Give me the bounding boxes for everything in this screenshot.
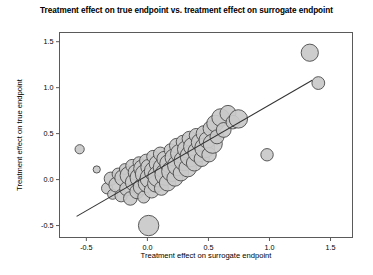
data-point-bubble: [75, 145, 84, 154]
data-point-bubble: [93, 166, 100, 173]
scatter-plot-canvas: -0.50.00.51.01.5 -0.50.00.51.01.5 Treatm…: [0, 0, 373, 275]
y-tick-label: 1.5: [44, 37, 54, 46]
y-tick-label: 0.0: [44, 175, 54, 184]
x-axis-label: Treatment effect on surrogate endpoint: [141, 251, 273, 260]
data-point-bubble: [261, 149, 273, 161]
x-tick-label: -0.5: [80, 243, 92, 252]
chart-figure: Treatment effect on true endpoint vs. tr…: [0, 0, 373, 275]
x-axis-ticks: -0.50.00.51.01.5: [80, 238, 335, 252]
data-point-bubble: [312, 77, 325, 90]
y-tick-label: 1.0: [44, 83, 54, 92]
y-tick-label: 0.5: [44, 129, 54, 138]
y-axis-ticks: -0.50.00.51.01.5: [41, 37, 59, 230]
y-axis-label: Treatment effect on true endpoint: [15, 78, 24, 191]
data-point-bubble: [301, 44, 318, 61]
y-tick-label: -0.5: [41, 221, 53, 230]
data-point-bubble: [138, 215, 158, 235]
x-tick-label: 1.5: [326, 243, 336, 252]
